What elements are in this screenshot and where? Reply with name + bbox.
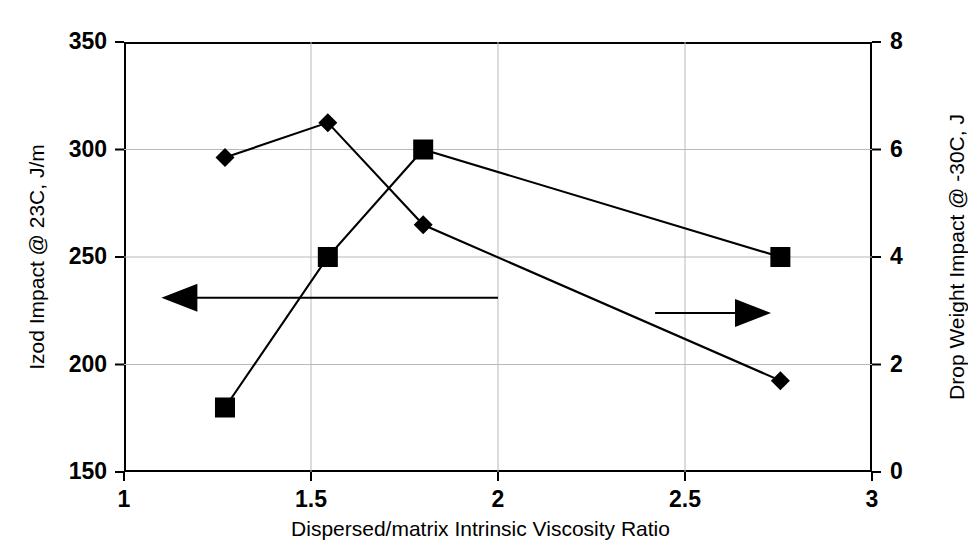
x-tick-label-2: 2 [463,488,533,511]
data-point-square-1 [318,247,338,267]
y-tick-label-left-350: 350 [45,30,107,53]
y-tick-label-right-0: 0 [890,460,920,483]
x-tick-label-3: 3 [837,488,907,511]
left-arrow [161,284,498,312]
y-tick-label-right-2: 2 [890,353,920,376]
y-tick-label-left-300: 300 [45,138,107,161]
y-axis-title-left: Izod Impact @ 23C, J/m [26,42,47,472]
y-axis-title-right: Drop Weight Impact @ -30C, J [946,32,967,482]
data-point-diamond-0 [215,148,234,167]
x-tick-label-1.5: 1.5 [276,488,346,511]
x-tick-label-2.5: 2.5 [650,488,720,511]
y-tick-label-right-8: 8 [890,30,920,53]
series-line-0 [225,150,780,408]
x-axis-title: Dispersed/matrix Intrinsic Viscosity Rat… [0,518,961,539]
annotation-arrows [161,284,771,327]
series-markers [215,113,790,417]
data-point-square-3 [770,247,790,267]
y-tick-label-left-200: 200 [45,353,107,376]
x-tick-label-1: 1 [89,488,159,511]
series-line-1 [225,123,780,381]
y-tick-label-left-150: 150 [45,460,107,483]
y-tick-label-left-250: 250 [45,245,107,268]
data-point-square-2 [413,140,433,160]
data-point-square-0 [215,398,235,418]
right-arrow [655,299,771,327]
data-point-diamond-3 [771,371,790,390]
y-tick-label-right-4: 4 [890,245,920,268]
y-tick-label-right-6: 6 [890,138,920,161]
